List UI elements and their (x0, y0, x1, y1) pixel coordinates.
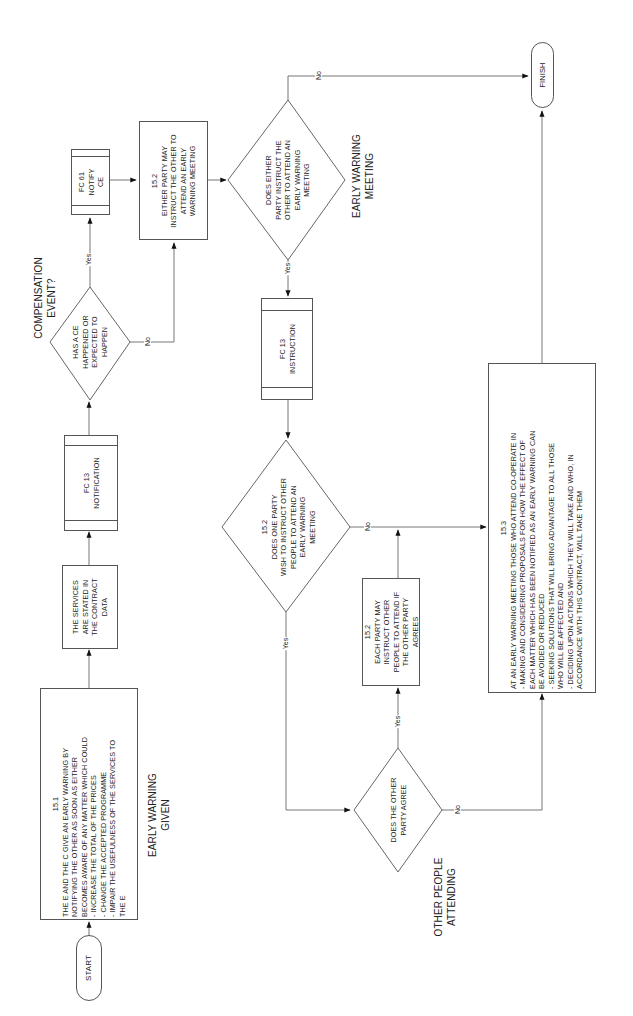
label-line: EARLY WARNING (351, 134, 364, 218)
text-line: MEETING (307, 478, 317, 576)
text-line: THE E AND THE C GIVE AN EARLY WARNING BY (61, 691, 71, 917)
start-label: START (84, 955, 95, 981)
band-divider (262, 387, 312, 388)
clause-ref: 15.1 (51, 691, 61, 917)
clause-ref: 15.2 (363, 592, 373, 673)
text-line: BE AVOIDED OR REDUCED (537, 367, 547, 689)
text-line: THE SERVICES (71, 578, 81, 636)
does-other-agree-decision: DOES THE OTHER PARTY AGREE (375, 770, 421, 850)
text-line: DOES ONE PARTY (269, 478, 279, 576)
text-line: EARLY WARNING (298, 478, 308, 576)
text-line: HAS A CE (71, 315, 81, 368)
text-line: EACH PARTY MAY (372, 592, 382, 673)
band-divider (262, 310, 312, 311)
text-line: WISH TO INSTRUCT OTHER (279, 478, 289, 576)
text-line: PEOPLE TO ATTEND AN (288, 478, 298, 576)
section-label-compensation-event: COMPENSATION EVENT? (28, 255, 62, 341)
text-line: HAPPEN (100, 315, 110, 368)
edge-label-no: No (364, 521, 371, 532)
text-line: THE CONTRACT (90, 578, 100, 636)
has-ce-decision: HAS A CE HAPPENED OR EXPECTED TO HAPPEN (60, 300, 120, 384)
either-party-may-box: 15.2 EITHER PARTY MAY INSTRUCT THE OTHER… (139, 121, 208, 240)
text-line: EACH MATTER WHICH HAS BEEN NOTIFIED AS A… (528, 367, 538, 689)
text-line: MEETING (302, 140, 312, 220)
text-line: WARNING MEETING (188, 134, 198, 227)
text-line: DOES EITHER (264, 140, 274, 220)
text-line: FC 61 (76, 169, 86, 196)
section-label-early-warning-given: EARLY WARNING GIVEN (142, 770, 176, 860)
fc61-notify-ce-box: FC 61 NOTIFY CE (71, 149, 110, 215)
edge-label-yes: Yes (282, 637, 289, 650)
text-line: EARLY WARNING (293, 140, 303, 220)
start-terminator: START (76, 935, 102, 1001)
label-line: ATTENDING (445, 858, 458, 937)
text-line: AGREES (410, 592, 420, 673)
label-line: GIVEN (159, 773, 172, 857)
does-one-party-decision: 15.2 DOES ONE PARTY WISH TO INSTRUCT OTH… (248, 470, 328, 584)
text-line: ATTEND AN EARLY (178, 134, 188, 227)
edge-label-yes: Yes (85, 253, 92, 266)
edge-label-no: No (315, 70, 322, 81)
text-line: NOTIFY (86, 169, 96, 196)
edge-label-yes: Yes (394, 715, 401, 728)
text-line: - MAKING AND CONSIDERING PROPOSALS FOR H… (518, 367, 528, 689)
section-label-early-warning-meeting: EARLY WARNING MEETING (346, 128, 380, 224)
finish-terminator: FINISH (531, 42, 554, 108)
clause-ref: 15.3 (499, 367, 509, 689)
services-box: THE SERVICES ARE STATED IN THE CONTRACT … (62, 565, 118, 649)
text-line: - SEEKING SOLUTIONS THAT WILL BRING ADVA… (547, 367, 557, 689)
text-line: OTHER TO ATTEND AN (283, 140, 293, 220)
text-line: PARTY INSTRUCT THE (274, 140, 284, 220)
label-line: COMPENSATION (33, 257, 46, 339)
fc13-instruction-box: FC 13 INSTRUCTION (261, 298, 313, 400)
edge-label-no: No (144, 336, 151, 347)
text-line: EITHER PARTY MAY (159, 134, 169, 227)
band-divider (65, 520, 117, 521)
edge-label-no: No (454, 804, 461, 815)
text-line: ACCORDANCE WITH THIS CONTRACT, WILL TAKE… (575, 367, 585, 689)
early-warning-box: 15.1 THE E AND THE C GIVE AN EARLY WARNI… (40, 688, 138, 920)
finish-label: FINISH (538, 62, 548, 87)
text-line: NOTIFYING THE OTHER AS SOON AS EITHER (70, 691, 80, 917)
text-line: DOES THE OTHER (389, 777, 399, 842)
text-line: PARTY AGREE (398, 777, 408, 842)
text-line: INSTRUCT OTHER (382, 592, 392, 673)
band-divider (65, 445, 117, 446)
band-divider (72, 205, 109, 206)
edge-label-yes: Yes (284, 262, 291, 275)
text-line: DATA (100, 578, 110, 636)
text-line: ARE STATED IN (81, 578, 91, 636)
each-party-may-box: 15.2 EACH PARTY MAY INSTRUCT OTHER PEOPL… (362, 578, 420, 686)
text-line: CE (95, 169, 105, 196)
fc13-notification-box: FC 13 NOTIFICATION (64, 435, 118, 531)
text-line: PEOPLE TO ATTEND IF (391, 592, 401, 673)
text-line: - INCREASE THE TOTAL OF THE PRICES (89, 691, 99, 917)
text-line: BECOMES AWARE OF ANY MATTER WHICH COULD (80, 691, 90, 917)
text-line: NOTIFICATION (91, 457, 101, 508)
meeting-actions-box: 15.3 AT AN EARLY WARNING MEETING THOSE W… (488, 363, 596, 693)
does-either-party-decision: DOES EITHER PARTY INSTRUCT THE OTHER TO … (250, 125, 326, 235)
text-line: EXPECTED TO (90, 315, 100, 368)
text-line: WHO WILL BE AFFECTED AND (556, 367, 566, 689)
section-label-other-people-attending: OTHER PEOPLE ATTENDING (428, 852, 462, 942)
text-line: INSTRUCTION (287, 324, 297, 374)
text-line: - CHANGE THE ACCEPTED PROGRAMME (99, 691, 109, 917)
clause-ref: 15.2 (260, 478, 270, 576)
label-line: EARLY WARNING (147, 773, 160, 857)
text-line: THE E (118, 691, 128, 917)
label-line: OTHER PEOPLE (433, 858, 446, 937)
text-line: AT AN EARLY WARNING MEETING THOSE WHO AT… (509, 367, 519, 689)
text-line: THE OTHER PARTY (401, 592, 411, 673)
text-line: - DECIDING UPON ACTIONS WHICH THEY WILL … (566, 367, 576, 689)
text-line: FC 13 (278, 324, 288, 374)
text-line: FC 13 (82, 457, 92, 508)
label-line: EVENT? (45, 257, 58, 339)
clause-ref: 15.2 (150, 134, 160, 227)
text-line: INSTRUCT THE OTHER TO (169, 134, 179, 227)
band-divider (72, 156, 109, 157)
text-line: - IMPAIR THE USEFULNESS OF THE SERVICES … (108, 691, 118, 917)
text-line: HAPPENED OR (81, 315, 91, 368)
label-line: MEETING (363, 134, 376, 218)
